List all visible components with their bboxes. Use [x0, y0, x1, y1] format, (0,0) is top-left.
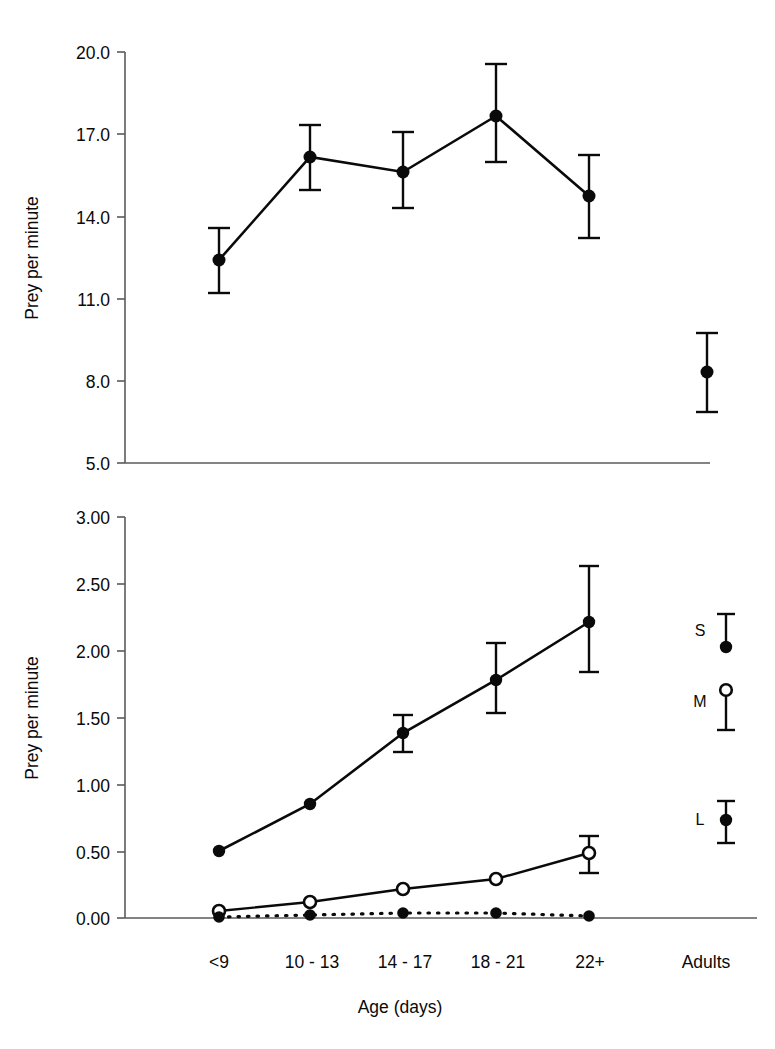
- l-data-point-1: [213, 911, 225, 923]
- top-ytick-label-8: 8.0: [86, 372, 111, 392]
- m-data-point-3: [397, 883, 409, 895]
- s-data-point-1: [213, 845, 225, 857]
- legend-l-marker-icon: [720, 814, 732, 826]
- top-panel: 20.0 17.0 14.0 11.0 8.0 5.0 Prey per min…: [22, 43, 718, 474]
- top-ytick-label-20: 20.0: [76, 43, 110, 63]
- bottom-series-l-markers: [213, 907, 595, 923]
- l-data-point-2: [304, 909, 316, 921]
- legend-label-m: M: [693, 693, 706, 710]
- bottom-series-s-errorbars: [393, 566, 599, 752]
- bottom-ytick-label-000: 0.00: [76, 909, 110, 929]
- top-data-point-3: [397, 166, 410, 179]
- m-data-point-5: [583, 847, 595, 859]
- bottom-ytick-label-200: 2.00: [76, 642, 110, 662]
- top-panel-y-axis-title: Prey per minute: [22, 196, 42, 320]
- bottom-panel-legend: S M L: [693, 614, 735, 843]
- xtick-label-5: 22+: [575, 952, 605, 972]
- top-data-point-5: [583, 190, 596, 203]
- bottom-series-s-markers: [213, 616, 595, 857]
- xtick-label-2: 10 - 13: [285, 952, 339, 972]
- bottom-panel: 3.00 2.50 2.00 1.50 1.00 0.50 0.00 Prey …: [22, 508, 757, 1017]
- s-data-point-4: [490, 674, 502, 686]
- s-data-point-5: [583, 616, 595, 628]
- s-data-point-2: [304, 798, 316, 810]
- bottom-panel-y-axis-title: Prey per minute: [22, 656, 42, 780]
- top-data-point-2: [304, 151, 317, 164]
- s-data-point-3: [397, 727, 409, 739]
- top-data-point-1: [213, 254, 226, 267]
- bottom-ytick-label-100: 1.00: [76, 776, 110, 796]
- xtick-label-1: <9: [209, 952, 229, 972]
- top-data-point-adults: [701, 366, 714, 379]
- top-panel-y-ticks: [117, 52, 125, 463]
- bottom-ytick-label-300: 3.00: [76, 508, 110, 528]
- xtick-label-adults: Adults: [682, 952, 731, 972]
- top-ytick-label-5: 5.0: [86, 454, 111, 474]
- m-data-point-4: [490, 873, 502, 885]
- bottom-panel-x-axis-title: Age (days): [358, 997, 443, 1017]
- top-ytick-label-11: 11.0: [77, 290, 110, 310]
- top-series-markers: [213, 110, 714, 379]
- bottom-panel-y-ticks: [117, 517, 125, 918]
- top-series-errorbars: [208, 64, 718, 412]
- legend-label-l: L: [696, 811, 705, 828]
- l-data-point-4: [490, 907, 502, 919]
- top-data-point-4: [490, 110, 503, 123]
- bottom-ytick-label-250: 2.50: [76, 575, 110, 595]
- xtick-label-4: 18 - 21: [471, 952, 525, 972]
- legend-label-s: S: [695, 622, 706, 639]
- legend-s-marker-icon: [720, 641, 732, 653]
- bottom-ytick-label-150: 1.50: [76, 709, 110, 729]
- figure-root: 20.0 17.0 14.0 11.0 8.0 5.0 Prey per min…: [0, 0, 775, 1049]
- l-data-point-3: [397, 907, 409, 919]
- top-ytick-label-14: 14.0: [76, 208, 110, 228]
- xtick-label-3: 14 - 17: [378, 952, 432, 972]
- figure-svg: 20.0 17.0 14.0 11.0 8.0 5.0 Prey per min…: [0, 0, 775, 1049]
- legend-m-marker-icon: [720, 684, 732, 696]
- top-ytick-label-17: 17.0: [76, 125, 110, 145]
- m-data-point-2: [304, 896, 316, 908]
- bottom-ytick-label-050: 0.50: [76, 843, 110, 863]
- l-data-point-5: [583, 910, 595, 922]
